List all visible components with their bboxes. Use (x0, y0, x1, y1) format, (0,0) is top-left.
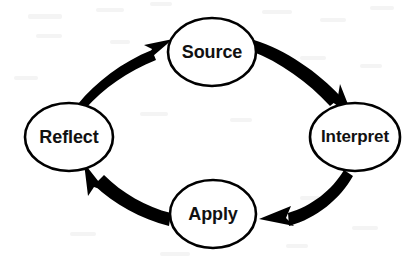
node-apply-label: Apply (188, 204, 238, 224)
node-interpret[interactable]: Interpret (310, 103, 400, 171)
node-source-label: Source (182, 42, 243, 62)
node-interpret-label: Interpret (321, 127, 389, 146)
edge-apply-to-reflect (84, 163, 171, 226)
node-source[interactable]: Source (168, 18, 256, 86)
node-reflect-label: Reflect (39, 127, 98, 147)
cycle-diagram: Source Interpret Apply Reflect (0, 0, 415, 263)
edge-reflect-to-source (78, 39, 173, 108)
cycle-diagram-canvas: Source Interpret Apply Reflect (0, 0, 415, 263)
node-reflect[interactable]: Reflect (25, 103, 113, 171)
node-apply[interactable]: Apply (170, 180, 256, 248)
